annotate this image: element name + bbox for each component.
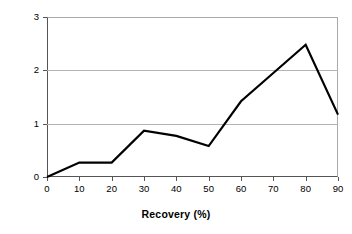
x-tick-mark-0 bbox=[47, 177, 48, 181]
x-tick-label-40: 40 bbox=[164, 184, 188, 194]
x-tick-label-0: 0 bbox=[35, 184, 59, 194]
x-tick-mark-40 bbox=[176, 177, 177, 181]
x-tick-label-20: 20 bbox=[100, 184, 124, 194]
x-tick-label-60: 60 bbox=[229, 184, 253, 194]
x-tick-mark-50 bbox=[209, 177, 210, 181]
y-tick-mark-3 bbox=[43, 17, 47, 18]
x-tick-mark-30 bbox=[144, 177, 145, 181]
x-tick-label-80: 80 bbox=[294, 184, 318, 194]
gridline-y-2 bbox=[47, 70, 338, 71]
gridline-y-1 bbox=[47, 124, 338, 125]
x-axis-title: Recovery (%) bbox=[0, 208, 352, 220]
y-tick-mark-2 bbox=[43, 70, 47, 71]
x-tick-label-50: 50 bbox=[197, 184, 221, 194]
x-tick-mark-80 bbox=[306, 177, 307, 181]
y-tick-label-2: 2 bbox=[1, 65, 39, 75]
y-tick-label-0: 0 bbox=[1, 172, 39, 182]
x-tick-mark-90 bbox=[338, 177, 339, 181]
chart-container: 0123 0102030405060708090 Recovery (%) Pr… bbox=[0, 0, 352, 234]
x-tick-label-90: 90 bbox=[326, 184, 350, 194]
x-tick-mark-10 bbox=[79, 177, 80, 181]
x-tick-label-10: 10 bbox=[67, 184, 91, 194]
plot-area bbox=[47, 17, 338, 177]
x-tick-mark-60 bbox=[241, 177, 242, 181]
x-tick-label-30: 30 bbox=[132, 184, 156, 194]
y-tick-mark-1 bbox=[43, 124, 47, 125]
y-tick-label-3: 3 bbox=[1, 12, 39, 22]
y-tick-label-1: 1 bbox=[1, 119, 39, 129]
x-tick-label-70: 70 bbox=[261, 184, 285, 194]
x-tick-mark-70 bbox=[273, 177, 274, 181]
x-tick-mark-20 bbox=[112, 177, 113, 181]
